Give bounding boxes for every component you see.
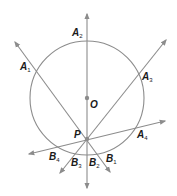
label-P: P bbox=[74, 129, 81, 140]
geometry-diagram: O P A2 A1 A3 A4 B4 B3 B2 B1 bbox=[0, 0, 177, 196]
label-A3: A3 bbox=[141, 71, 153, 83]
label-A4: A4 bbox=[136, 129, 148, 141]
label-B4: B4 bbox=[49, 151, 60, 163]
point-O bbox=[85, 96, 89, 100]
label-O: O bbox=[90, 99, 98, 110]
label-A1: A1 bbox=[19, 61, 31, 73]
label-A2: A2 bbox=[71, 27, 83, 39]
label-B1: B1 bbox=[106, 153, 117, 165]
point-P bbox=[85, 137, 89, 141]
label-B2: B2 bbox=[89, 157, 100, 169]
label-B3: B3 bbox=[71, 157, 82, 169]
